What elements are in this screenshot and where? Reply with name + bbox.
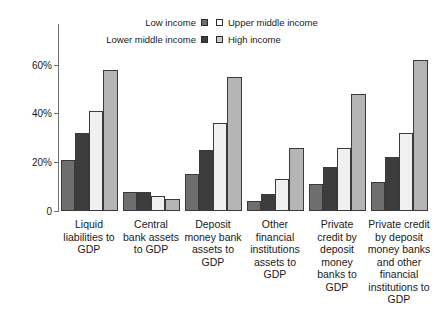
bar (199, 150, 213, 211)
bar (261, 194, 275, 211)
plot-area: 60%40%20%0 (58, 50, 430, 211)
y-axis-tick-label: 60% (32, 59, 52, 70)
bar (309, 184, 323, 211)
bar (351, 94, 365, 211)
bar-group (309, 50, 366, 211)
legend-swatch-high-income (216, 36, 223, 43)
x-axis-category-label-line: money banks (355, 243, 441, 256)
x-axis-category-label-line: institutions to (355, 281, 441, 294)
x-axis-category-label-line: financial (355, 268, 441, 281)
bar (185, 174, 199, 211)
y-axis-tick-label: 20% (32, 157, 52, 168)
x-axis-category-label-line: GDP (355, 293, 441, 306)
bar-group (185, 50, 242, 211)
legend-column-right: Upper middle income High income (216, 14, 346, 48)
legend-item-high-income: High income (216, 31, 346, 48)
y-axis-tick-mark (54, 113, 58, 114)
legend-label-lower-middle-income: Lower middle income (106, 31, 196, 48)
bar (165, 199, 179, 211)
y-axis-tick-mark (54, 162, 58, 163)
legend-item-lower-middle-income: Lower middle income (84, 31, 208, 48)
bar (151, 196, 165, 211)
bar (227, 77, 241, 211)
bar-group-bars (185, 50, 242, 211)
bar-group-bars (247, 50, 304, 211)
x-axis-category-label-line: and other (355, 256, 441, 269)
y-axis-tick-mark (54, 65, 58, 66)
bar (213, 123, 227, 211)
bar-group-bars (309, 50, 366, 211)
x-axis-category-label-line: Private credit (355, 218, 441, 231)
legend-item-low-income: Low income (84, 14, 208, 31)
bar-group-bars (61, 50, 118, 211)
legend-label-high-income: High income (228, 31, 281, 48)
legend-column-left: Low income Lower middle income (84, 14, 208, 48)
legend-label-upper-middle-income: Upper middle income (228, 14, 318, 31)
bar (75, 133, 89, 211)
bar (413, 60, 427, 211)
legend-swatch-lower-middle-income (201, 36, 208, 43)
bar-group-bars (123, 50, 180, 211)
bar (323, 167, 337, 211)
y-axis-tick-label: 0 (46, 206, 52, 217)
bar (399, 133, 413, 211)
bar (103, 70, 117, 211)
bar-group (371, 50, 428, 211)
bar (247, 201, 261, 211)
x-axis-category-label: Private creditby depositmoney banksand o… (355, 218, 441, 306)
legend-swatch-upper-middle-income (216, 19, 223, 26)
chart-legend: Low income Lower middle income Upper mid… (84, 14, 344, 48)
bar (385, 157, 399, 211)
bar-group (61, 50, 118, 211)
legend-label-low-income: Low income (145, 14, 196, 31)
y-axis-tick-label: 40% (32, 108, 52, 119)
bar-group-bars (371, 50, 428, 211)
legend-swatch-low-income (201, 19, 208, 26)
bar-group (123, 50, 180, 211)
bar (289, 148, 303, 211)
bar-chart: Low income Lower middle income Upper mid… (0, 0, 441, 320)
bar (89, 111, 103, 211)
x-axis-category-label-line: by deposit (355, 231, 441, 244)
y-axis-tick-mark (54, 211, 58, 212)
bar (275, 179, 289, 211)
legend-item-upper-middle-income: Upper middle income (216, 14, 346, 31)
bar (137, 192, 151, 212)
bar (371, 182, 385, 211)
bar (337, 148, 351, 211)
bar-group (247, 50, 304, 211)
bar (123, 192, 137, 212)
bar (61, 160, 75, 211)
